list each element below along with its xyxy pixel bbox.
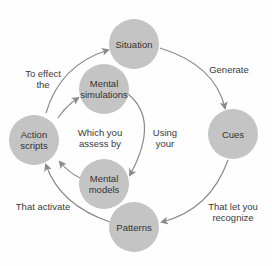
cycle-diagram: Situation Mental simulations Action scri… <box>0 0 272 266</box>
edge-label-which-you-assess-by: Which you assess by <box>72 127 128 149</box>
edge-label-using-your: Using your <box>148 127 182 149</box>
arrow-simulations-to-models <box>128 94 145 175</box>
node-patterns: Patterns <box>109 202 159 252</box>
node-mental-models: Mental models <box>79 159 129 209</box>
node-situation: Situation <box>109 19 159 69</box>
arrow-action-to-simulations <box>58 98 78 118</box>
edge-label-generate: Generate <box>206 64 252 75</box>
node-cues: Cues <box>208 109 258 159</box>
edge-label-to-effect: To effect the <box>20 68 66 90</box>
node-action-scripts-label: Action scripts <box>20 129 47 151</box>
edge-label-that-let-you-recognize: That let you recognize <box>203 201 263 223</box>
node-situation-label: Situation <box>116 39 153 50</box>
node-mental-simulations: Mental simulations <box>79 64 129 114</box>
node-mental-simulations-label: Mental simulations <box>80 78 128 100</box>
node-cues-label: Cues <box>222 129 244 140</box>
node-mental-models-label: Mental models <box>89 173 120 195</box>
arrow-situation-to-cues <box>160 48 225 108</box>
edge-label-that-activate: That activate <box>12 201 74 212</box>
node-patterns-label: Patterns <box>116 222 151 233</box>
arrow-models-to-action <box>60 162 80 178</box>
node-action-scripts: Action scripts <box>9 115 59 165</box>
